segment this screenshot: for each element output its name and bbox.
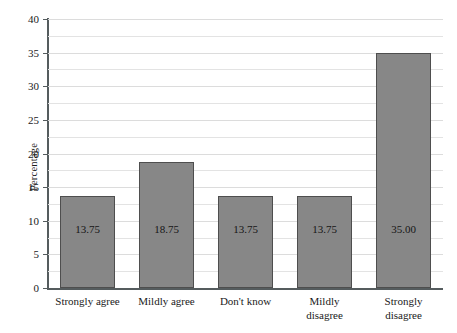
bar-value-label: 13.75 bbox=[219, 224, 272, 235]
y-axis-tick-label: 20 bbox=[28, 148, 39, 159]
bar: 35.00 bbox=[376, 53, 431, 288]
y-axis-tick-mark bbox=[43, 187, 48, 188]
y-axis-tick-label: 0 bbox=[34, 283, 40, 294]
x-axis-category-label: Stronglydisagree bbox=[364, 295, 443, 322]
bar: 13.75 bbox=[60, 196, 115, 288]
y-axis-tick-label: 10 bbox=[28, 215, 39, 226]
chart-figure: Percentage 0510152025303540 13.7518.7513… bbox=[0, 0, 457, 333]
y-axis-tick-mark bbox=[43, 53, 48, 54]
bar-value-label: 35.00 bbox=[377, 224, 430, 235]
x-axis-line bbox=[47, 288, 443, 290]
x-axis-category-label-line: Strongly agree bbox=[48, 295, 127, 309]
y-axis-tick-mark bbox=[43, 154, 48, 155]
gridline bbox=[48, 36, 443, 37]
y-axis-tick-mark bbox=[43, 288, 48, 289]
y-axis-tick-mark bbox=[43, 254, 48, 255]
y-axis-tick-label: 5 bbox=[34, 249, 40, 260]
x-axis-category-label: Mildly agree bbox=[127, 295, 206, 309]
gridline bbox=[48, 19, 443, 20]
x-axis-category-label-line: Mildly bbox=[285, 295, 364, 309]
y-axis-tick-label: 35 bbox=[28, 47, 39, 58]
y-axis-tick-mark bbox=[43, 19, 48, 20]
y-axis-tick-label: 40 bbox=[28, 14, 39, 25]
x-axis-category-label: Strongly agree bbox=[48, 295, 127, 309]
y-axis-tick-label: 30 bbox=[28, 81, 39, 92]
x-axis-category-label: Don't know bbox=[206, 295, 285, 309]
bar: 13.75 bbox=[297, 196, 352, 288]
y-axis-tick-label: 25 bbox=[28, 114, 39, 125]
x-axis-category-label: Mildlydisagree bbox=[285, 295, 364, 322]
y-axis-tick-label: 15 bbox=[28, 182, 39, 193]
x-axis-category-label-line: Mildly agree bbox=[127, 295, 206, 309]
y-axis-tick-mark bbox=[43, 221, 48, 222]
plot-area: 0510152025303540 13.7518.7513.7513.7535.… bbox=[48, 19, 443, 288]
y-axis-tick-mark bbox=[43, 120, 48, 121]
x-axis-category-label-line: Don't know bbox=[206, 295, 285, 309]
x-axis-category-label-line: disagree bbox=[364, 309, 443, 323]
bar: 13.75 bbox=[218, 196, 273, 288]
bar-value-label: 13.75 bbox=[61, 224, 114, 235]
bar: 18.75 bbox=[139, 162, 194, 288]
x-axis-category-label-line: Strongly bbox=[364, 295, 443, 309]
x-axis-category-label-line: disagree bbox=[285, 309, 364, 323]
bar-value-label: 18.75 bbox=[140, 224, 193, 235]
bar-value-label: 13.75 bbox=[298, 224, 351, 235]
y-axis-tick-mark bbox=[43, 86, 48, 87]
